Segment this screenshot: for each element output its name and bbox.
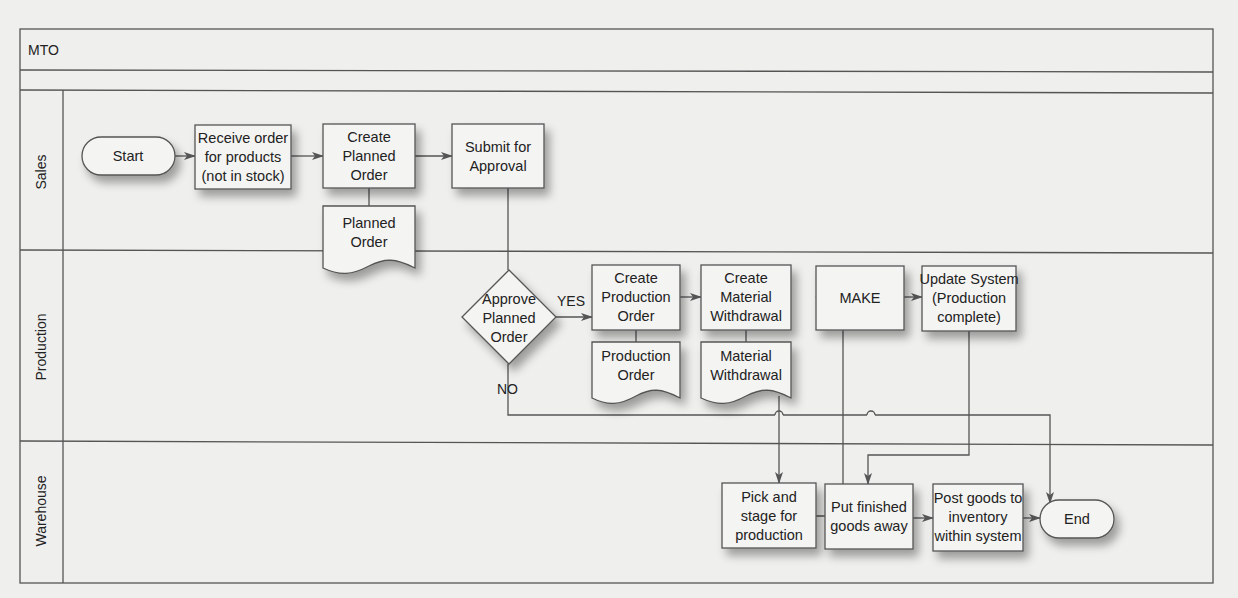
line-hop — [867, 411, 875, 415]
diagram-title: MTO — [28, 42, 59, 58]
lane-label-production: Production — [33, 314, 49, 381]
lane-divider-production-warehouse — [20, 441, 1213, 445]
mto-swimlane-diagram: MTO Sales Production Warehouse — [0, 0, 1238, 598]
node-submit-shape — [452, 124, 544, 188]
node-end-label: End — [1064, 511, 1090, 527]
node-put-finished-shape — [825, 484, 913, 549]
connectors — [175, 156, 1050, 518]
shapes — [82, 124, 1114, 551]
lane-label-warehouse: Warehouse — [33, 475, 49, 546]
lane-label-sales: Sales — [33, 154, 49, 189]
lane-label: Production — [33, 314, 49, 381]
edge-update-putaway — [868, 331, 969, 484]
node-labels: StartReceive orderfor products(not in st… — [113, 129, 1090, 544]
node-make-label: MAKE — [839, 290, 880, 306]
lane-label: Warehouse — [33, 475, 49, 546]
lane-label: Sales — [33, 154, 49, 189]
node-pick-and-stage-label: Pick andstage forproduction — [735, 489, 803, 543]
edge-label-yes: YES — [557, 293, 585, 309]
node-start-label: Start — [113, 148, 144, 164]
edge-label-no: NO — [497, 381, 518, 397]
lane-divider-sales-production — [20, 250, 1213, 253]
node-receive-order-label: Receive orderfor products(not in stock) — [198, 130, 288, 184]
